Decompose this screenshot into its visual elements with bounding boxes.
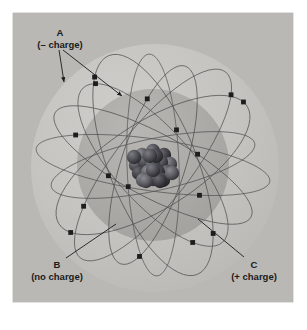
electron-particle xyxy=(195,152,200,157)
label-b-charge: (no charge) xyxy=(31,271,83,282)
label-a-letter: A xyxy=(57,27,64,38)
diagram-canvas: A (– charge) B (no charge) C (+ charge) xyxy=(0,0,307,330)
electron-particle xyxy=(229,92,234,97)
electron-particle xyxy=(93,81,98,86)
electron-particle xyxy=(190,240,195,245)
electron-particle xyxy=(174,127,179,132)
electron-particle xyxy=(106,173,111,178)
atom-diagram-figure: A (– charge) B (no charge) C (+ charge) xyxy=(0,0,307,330)
electron-particle xyxy=(197,193,202,198)
label-a-charge: (– charge) xyxy=(37,39,82,50)
label-b-letter: B xyxy=(54,259,61,270)
electron-particle xyxy=(137,254,142,259)
electron-particle xyxy=(68,230,73,235)
electron-particle xyxy=(73,133,78,138)
label-c-charge: (+ charge) xyxy=(231,271,277,282)
nucleus-particle xyxy=(165,166,179,180)
electron-particle xyxy=(126,184,131,189)
electron-particle xyxy=(241,100,246,105)
nucleus-particle xyxy=(143,149,157,163)
electron-particle xyxy=(145,96,150,101)
nucleus-particle xyxy=(127,150,141,164)
nucleus-particle xyxy=(146,163,160,177)
label-c-letter: C xyxy=(251,259,258,270)
electron-particle xyxy=(81,204,86,209)
